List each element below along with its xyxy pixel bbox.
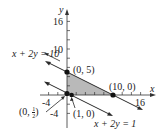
- vertex-label-0-5: (0, 5): [73, 65, 95, 75]
- y-tick-label-16: 16: [53, 17, 63, 27]
- line-arrow-icon: [45, 61, 51, 66]
- vertex-label-0-half: (0, 12): [19, 106, 39, 119]
- vertex-label-1-0: (1, 0): [73, 109, 95, 119]
- x-tick-label-16: 16: [135, 98, 145, 108]
- vertex-label-0-half-suffix: ): [35, 106, 38, 117]
- x-ticks: [49, 92, 141, 95]
- x-tick-label-neg4: -4: [42, 98, 50, 108]
- x-axis-label: x: [150, 84, 154, 94]
- line-arrow-icon: [107, 112, 113, 116]
- y-tick-label-neg4: -4: [50, 109, 58, 119]
- equation-label-10: x + 2y = 10: [12, 49, 59, 59]
- equation-label-1: x + 2y = 1: [94, 119, 136, 129]
- y-axis-arrow-icon: [65, 9, 69, 15]
- y-ticks: [67, 21, 70, 113]
- vertex-1-0: [69, 93, 74, 98]
- vertex-label-0-half-prefix: (0,: [19, 106, 32, 117]
- line-arrow-icon: [44, 82, 50, 87]
- vertex-label-10-0: (10, 0): [109, 82, 136, 92]
- vertex-0-5: [64, 69, 69, 74]
- vertex-0-half: [64, 91, 69, 96]
- vertex-10-0: [110, 92, 115, 97]
- pointer-arrow-icon: [70, 97, 74, 101]
- y-axis-label: y: [59, 5, 63, 15]
